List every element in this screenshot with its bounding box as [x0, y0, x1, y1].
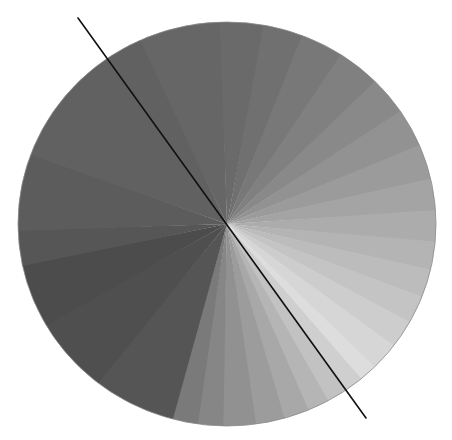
wedge-disc-figure	[0, 0, 452, 440]
disc-canvas	[0, 0, 452, 440]
